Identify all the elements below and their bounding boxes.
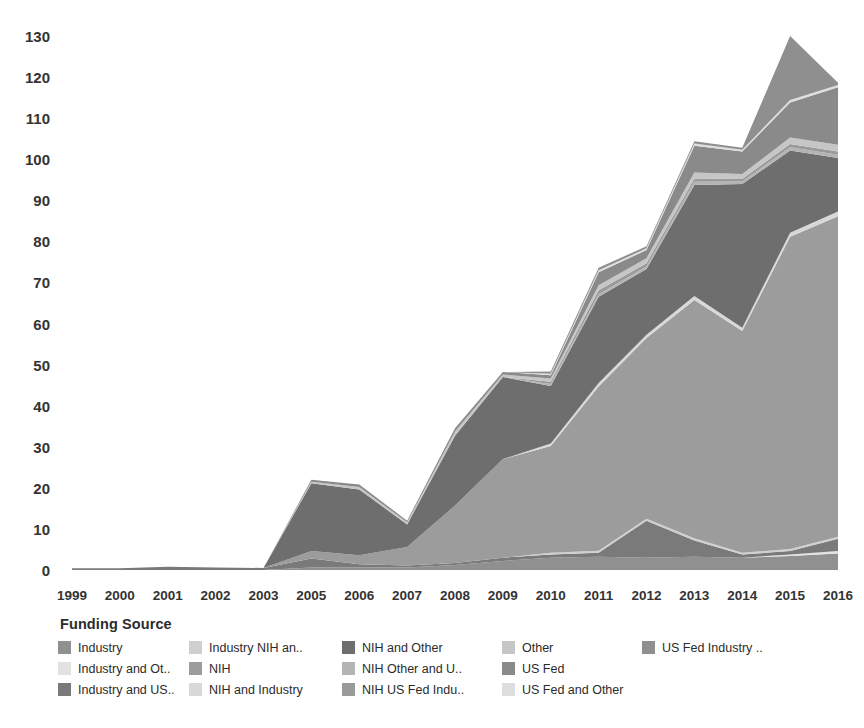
legend-item-label: Industry and Ot.. xyxy=(78,662,170,676)
legend-swatch xyxy=(58,662,71,675)
legend-swatch xyxy=(58,641,71,654)
legend-column: IndustryIndustry and Ot..Industry and US… xyxy=(58,637,189,700)
legend-swatch xyxy=(642,641,655,654)
x-axis-tick-label: 2016 xyxy=(823,588,854,603)
y-axis-tick-label: 130 xyxy=(25,28,50,45)
x-axis-tick-label: 2010 xyxy=(536,588,566,603)
legend-swatch xyxy=(58,683,71,696)
legend-item-label: US Fed Industry .. xyxy=(662,641,763,655)
legend-item-label: Industry xyxy=(78,641,122,655)
x-axis-tick-label: 2012 xyxy=(631,588,661,603)
x-axis-tick-label: 2011 xyxy=(584,588,614,603)
legend-item-label: NIH Other and U.. xyxy=(362,662,462,676)
y-axis-tick-label: 30 xyxy=(33,439,50,456)
y-axis-tick-label: 110 xyxy=(26,110,50,127)
legend-swatch xyxy=(189,662,202,675)
legend-grid: IndustryIndustry and Ot..Industry and US… xyxy=(58,637,858,700)
legend-swatch xyxy=(342,641,355,654)
legend-item-label: NIH and Industry xyxy=(209,683,303,697)
x-axis-tick-label: 2014 xyxy=(727,588,758,603)
legend-swatch xyxy=(502,662,515,675)
y-axis-tick-label: 120 xyxy=(25,69,50,86)
x-axis-tick-label: 2015 xyxy=(775,588,806,603)
y-axis-tick-label: 50 xyxy=(33,357,50,374)
x-axis-tick-labels: 1999200020012002200320052006200720082009… xyxy=(57,588,854,603)
legend-item[interactable]: Industry and Ot.. xyxy=(58,658,189,679)
area-series-group xyxy=(72,36,838,570)
legend-item-label: Industry and US.. xyxy=(78,683,175,697)
legend-item-label: US Fed xyxy=(522,662,564,676)
x-axis-tick-label: 2006 xyxy=(344,588,375,603)
legend-swatch xyxy=(189,683,202,696)
legend-item[interactable]: NIH and Other xyxy=(342,637,502,658)
legend-item[interactable]: Other xyxy=(502,637,642,658)
x-axis-tick-label: 2003 xyxy=(248,588,279,603)
legend-swatch xyxy=(189,641,202,654)
legend-column: OtherUS FedUS Fed and Other xyxy=(502,637,642,700)
x-axis-tick-label: 2009 xyxy=(488,588,518,603)
legend-swatch xyxy=(342,683,355,696)
legend-swatch xyxy=(502,683,515,696)
x-axis-tick-label: 2002 xyxy=(201,588,231,603)
legend-item[interactable]: NIH Other and U.. xyxy=(342,658,502,679)
x-axis-tick-label: 2001 xyxy=(153,588,184,603)
legend-item-label: NIH xyxy=(209,662,231,676)
y-axis-tick-label: 80 xyxy=(33,233,50,250)
legend-column: Industry NIH an..NIHNIH and Industry xyxy=(189,637,342,700)
x-axis-tick-label: 2005 xyxy=(296,588,327,603)
y-axis-tick-label: 10 xyxy=(33,521,50,538)
y-axis-tick-label: 100 xyxy=(25,151,50,168)
y-axis-tick-label: 20 xyxy=(33,480,50,497)
legend-item[interactable]: NIH xyxy=(189,658,342,679)
x-axis-tick-label: 2007 xyxy=(392,588,422,603)
legend-item[interactable]: NIH and Industry xyxy=(189,679,342,700)
legend-title: Funding Source xyxy=(60,616,858,632)
legend-column: NIH and OtherNIH Other and U..NIH US Fed… xyxy=(342,637,502,700)
x-axis-tick-label: 2008 xyxy=(440,588,471,603)
legend-item[interactable]: Industry NIH an.. xyxy=(189,637,342,658)
legend-item-label: Industry NIH an.. xyxy=(209,641,303,655)
legend-item[interactable]: NIH US Fed Indu.. xyxy=(342,679,502,700)
legend-item-label: NIH US Fed Indu.. xyxy=(362,683,464,697)
legend-item-label: NIH and Other xyxy=(362,641,443,655)
legend-item[interactable]: Industry and US.. xyxy=(58,679,189,700)
y-axis-tick-labels: 1301201101009080706050403020100 xyxy=(25,28,50,579)
legend-item-label: US Fed and Other xyxy=(522,683,623,697)
x-axis-tick-label: 2000 xyxy=(105,588,135,603)
y-axis-tick-label: 0 xyxy=(42,562,50,579)
legend-swatch xyxy=(502,641,515,654)
legend-swatch xyxy=(342,662,355,675)
x-axis-tick-label: 2013 xyxy=(679,588,710,603)
y-axis-tick-label: 60 xyxy=(33,316,50,333)
legend: Funding Source IndustryIndustry and Ot..… xyxy=(58,616,858,712)
legend-column: US Fed Industry .. xyxy=(642,637,802,658)
y-axis-tick-label: 90 xyxy=(33,192,50,209)
legend-item[interactable]: US Fed Industry .. xyxy=(642,637,802,658)
x-axis-tick-label: 1999 xyxy=(57,588,87,603)
legend-item[interactable]: US Fed and Other xyxy=(502,679,642,700)
y-axis-tick-label: 40 xyxy=(33,398,50,415)
legend-item[interactable]: Industry xyxy=(58,637,189,658)
y-axis-tick-label: 70 xyxy=(33,274,50,291)
legend-item-label: Other xyxy=(522,641,553,655)
legend-item[interactable]: US Fed xyxy=(502,658,642,679)
